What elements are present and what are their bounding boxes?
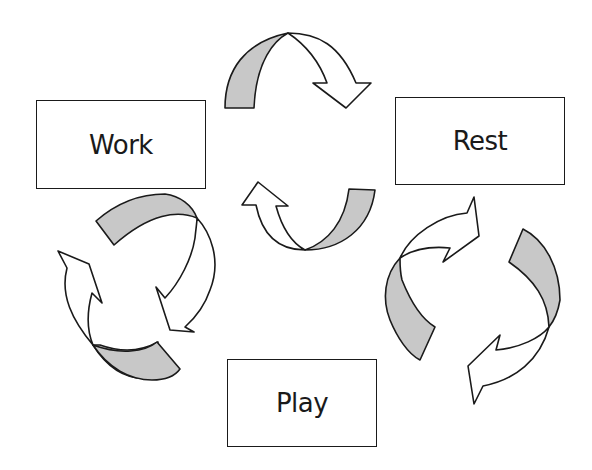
arrow-play-to-rest-icon bbox=[385, 197, 479, 360]
arrow-play-to-work-icon bbox=[58, 251, 180, 380]
node-work-label: Work bbox=[89, 130, 153, 160]
arrow-work-to-play-icon bbox=[96, 194, 215, 332]
node-rest: Rest bbox=[395, 97, 565, 185]
node-work: Work bbox=[36, 100, 206, 189]
arrow-work-to-rest-icon bbox=[225, 33, 371, 108]
node-play-label: Play bbox=[276, 388, 328, 418]
node-play: Play bbox=[227, 359, 377, 447]
cycle-diagram: Work Rest Play bbox=[0, 0, 592, 470]
arrow-rest-to-work-icon bbox=[242, 182, 375, 250]
arrow-rest-to-play-icon bbox=[468, 229, 560, 404]
node-rest-label: Rest bbox=[453, 126, 508, 156]
